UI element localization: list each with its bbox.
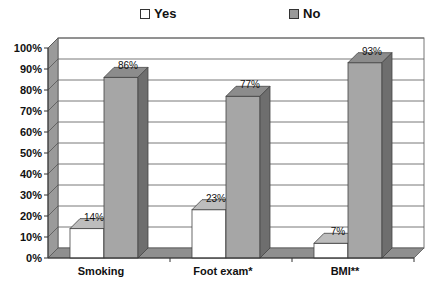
data-label: 23% (206, 193, 226, 204)
y-tick-label: 70% (20, 105, 42, 117)
bar-no-1: 77% (226, 79, 270, 258)
x-tick-label: Smoking (78, 265, 124, 277)
bar-chart: 0%10%20%30%40%50%60%70%80%90%100% 14%86%… (0, 0, 439, 289)
y-axis: 0%10%20%30%40%50%60%70%80%90%100% (14, 42, 48, 264)
bar-no-2: 93% (348, 46, 392, 258)
x-tick-label: BMI** (331, 265, 360, 277)
y-tick-label: 60% (20, 126, 42, 138)
data-label: 86% (118, 60, 138, 71)
y-tick-label: 30% (20, 189, 42, 201)
data-label: 7% (331, 226, 346, 237)
y-tick-label: 80% (20, 84, 42, 96)
x-tick-label: Foot exam* (193, 265, 253, 277)
bar-no-0: 86% (104, 60, 148, 258)
y-tick-label: 40% (20, 168, 42, 180)
data-label: 77% (240, 79, 260, 90)
y-tick-label: 10% (20, 231, 42, 243)
y-tick-label: 50% (20, 147, 42, 159)
data-label: 14% (84, 212, 104, 223)
x-axis: SmokingFoot exam*BMI** (48, 258, 414, 277)
y-tick-label: 0% (26, 252, 42, 264)
y-tick-label: 100% (14, 42, 42, 54)
y-tick-label: 90% (20, 63, 42, 75)
data-label: 93% (362, 46, 382, 57)
y-tick-label: 20% (20, 210, 42, 222)
